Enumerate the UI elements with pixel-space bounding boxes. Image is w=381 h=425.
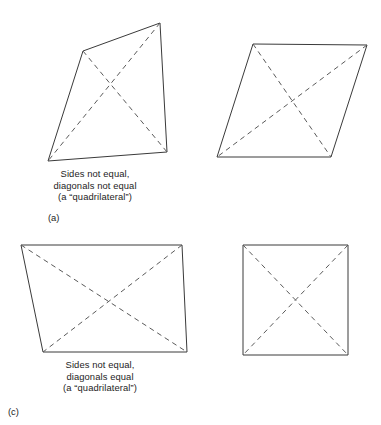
panel-a-caption: Sides not equal, diagonals not equal (a … [0, 168, 190, 203]
panel-b: Sides equal, diagonals not equal (a “rho… [190, 0, 381, 230]
panel-c: Sides not equal, diagonals equal (a “qua… [0, 228, 200, 425]
caption-line-3: (a “quadrilateral”) [0, 382, 200, 394]
diagonal-1 [21, 245, 187, 352]
panel-c-diagram [0, 228, 200, 358]
caption-line-2: diagonals equal [0, 371, 200, 383]
panel-a: Sides not equal, diagonals not equal (a … [0, 0, 190, 215]
quadrilateral-outline [48, 23, 167, 161]
diagonal-2 [43, 245, 182, 352]
caption-line-1: Sides not equal, [0, 168, 190, 180]
panel-a-letter: (a) [48, 212, 59, 223]
panel-c-caption: Sides not equal, diagonals equal (a “qua… [0, 359, 200, 394]
caption-line-1: Sides not equal, [0, 359, 200, 371]
caption-line-2: diagonals not equal [0, 180, 190, 192]
panel-a-diagram [0, 0, 190, 168]
diagonal-2 [217, 45, 367, 157]
caption-line-3: (a “quadrilateral”) [0, 191, 190, 203]
quadrilaterals-figure: Sides not equal, diagonals not equal (a … [0, 0, 381, 425]
panel-b-diagram [190, 0, 381, 176]
panel-d: Sides equal, diagonals equal (a “square”… [190, 228, 381, 425]
panel-c-letter: (c) [8, 406, 19, 417]
panel-d-diagram [190, 228, 381, 358]
